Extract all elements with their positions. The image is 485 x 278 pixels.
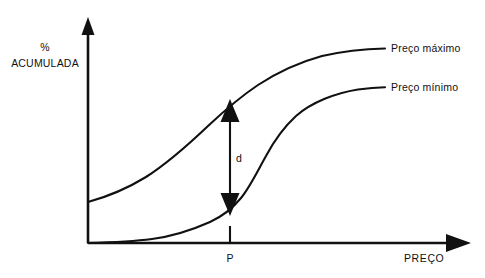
- x-axis-arrow-icon: [446, 234, 471, 252]
- legend-label-preco-maximo: Preço máximo: [391, 42, 461, 54]
- x-tick-p-label: P: [226, 252, 233, 264]
- dimension-arrow-d: d: [221, 99, 243, 216]
- legend-group: Preço máximo Preço mínimo: [391, 42, 461, 93]
- x-axis-title: PREÇO: [404, 252, 444, 264]
- y-axis-title-group: % ACUMULADA: [11, 41, 79, 69]
- curve-preco-maximo: [88, 49, 385, 203]
- dimension-label-d: d: [236, 152, 242, 164]
- dimension-arrow-up-icon: [221, 99, 240, 122]
- curve-preco-minimo: [88, 87, 385, 243]
- y-axis-title-line2: ACUMULADA: [11, 57, 79, 69]
- chart-figure: d P % ACUMULADA PREÇO Preço máximo Preço…: [0, 0, 485, 278]
- y-axis-title-line1: %: [40, 41, 50, 53]
- y-axis-arrow-icon: [82, 17, 95, 35]
- dimension-arrow-down-icon: [221, 193, 240, 216]
- x-tick-p-group: P: [226, 226, 233, 264]
- chart-canvas: d P % ACUMULADA PREÇO Preço máximo Preço…: [0, 0, 485, 278]
- legend-label-preco-minimo: Preço mínimo: [391, 81, 458, 93]
- curves-group: [88, 49, 385, 244]
